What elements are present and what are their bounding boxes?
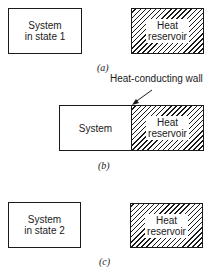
reservoir-label-line2: reservoir xyxy=(148,128,187,139)
heat-reservoir-b: Heat reservoir xyxy=(131,105,204,151)
heat-reservoir-c: Heat reservoir xyxy=(130,203,203,248)
system-box-contact: System xyxy=(59,105,132,151)
reservoir-label: Heat reservoir xyxy=(146,116,189,140)
reservoir-label-line1: Heat xyxy=(148,117,187,128)
reservoir-label-line2: reservoir xyxy=(147,226,186,237)
system-label: System xyxy=(77,122,114,135)
reservoir-label-line1: Heat xyxy=(147,215,186,226)
system-label-line2: in state 2 xyxy=(24,225,65,236)
system-label: System in state 2 xyxy=(22,213,67,237)
system-label-line1: System xyxy=(79,123,112,134)
system-label-line1: System xyxy=(24,214,65,225)
caption-c: (c) xyxy=(99,256,110,267)
caption-b: (b) xyxy=(98,160,110,171)
system-box-state-2: System in state 2 xyxy=(8,202,81,248)
reservoir-label: Heat reservoir xyxy=(145,214,188,238)
